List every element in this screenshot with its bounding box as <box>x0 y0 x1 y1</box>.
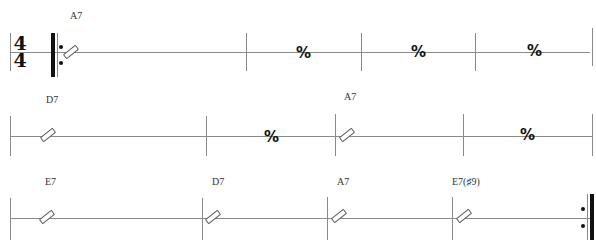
barline <box>475 33 476 71</box>
staff-line-2 <box>10 136 592 137</box>
barline <box>452 197 453 240</box>
chord-symbol: A7 <box>70 10 82 21</box>
chord-symbol: A7 <box>344 91 356 102</box>
end-repeat-thin-bar <box>587 194 588 240</box>
repeat-dot <box>581 224 585 228</box>
measure-repeat-icon: % <box>411 45 426 60</box>
barline <box>202 198 203 240</box>
repeat-dot <box>59 45 63 49</box>
start-barline-1 <box>10 33 11 71</box>
slash-notation-icon <box>339 128 355 143</box>
end-barline-1 <box>592 28 593 66</box>
measure-repeat-icon: % <box>520 128 535 143</box>
barline <box>246 33 247 71</box>
time-signature-bottom: 4 <box>13 52 27 69</box>
repeat-dot <box>59 61 63 65</box>
chord-symbol: A7 <box>337 176 349 187</box>
staff-line-3 <box>10 218 590 219</box>
chord-symbol: D7 <box>212 176 224 187</box>
end-repeat-thick-bar <box>590 194 594 240</box>
barline <box>335 114 336 156</box>
start-repeat-thin-bar <box>57 33 58 77</box>
barline <box>206 116 207 156</box>
chord-symbol: E7 <box>45 176 56 187</box>
time-signature: 4 4 <box>13 35 27 69</box>
end-barline-2 <box>592 114 593 156</box>
barline <box>361 33 362 71</box>
slash-notation-icon <box>205 210 221 225</box>
measure-repeat-icon: % <box>264 130 279 145</box>
slash-notation-icon <box>39 210 55 225</box>
barline <box>463 114 464 156</box>
start-repeat-thick-bar <box>51 33 55 77</box>
chord-symbol: D7 <box>46 94 58 105</box>
slash-notation-icon <box>456 209 472 224</box>
slash-notation-icon <box>331 209 347 224</box>
barline <box>327 197 328 240</box>
chord-symbol: E7(♯9) <box>452 176 480 187</box>
start-barline-2 <box>10 116 11 156</box>
measure-repeat-icon: % <box>296 46 311 61</box>
measure-repeat-icon: % <box>527 44 542 59</box>
repeat-dot <box>581 207 585 211</box>
slash-notation-icon <box>40 128 56 143</box>
start-barline-3 <box>10 198 11 240</box>
